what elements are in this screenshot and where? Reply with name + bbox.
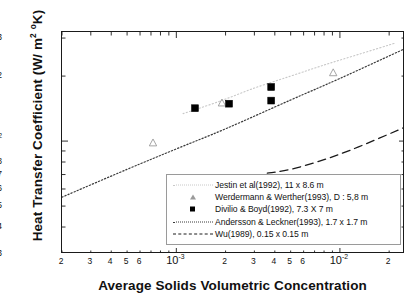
legend-line-dotted-light [173, 185, 213, 186]
legend-item-4: Wu(1989), 0.15 x 0.15 m [171, 228, 394, 240]
legend-symbol-4 [171, 228, 215, 240]
data-point-triangle [149, 139, 156, 146]
x-tick-label-5: 10-3 [155, 254, 195, 266]
series-1 [149, 69, 337, 146]
legend-item-3: Andersson & Leckner(1993), 1.7 x 1.7 m [171, 216, 394, 228]
y-tick-label-2: 102 [0, 133, 2, 145]
data-point-square [226, 100, 233, 107]
legend-marker-filled-square [190, 207, 195, 212]
y-tick-label-1: 2 [0, 70, 2, 80]
chart-root: Heat Transfer Coefficient (W/ m2 oK) Ave… [0, 0, 416, 306]
x-tick-label-4: 6 [119, 256, 159, 266]
legend-line-long-dash [173, 233, 213, 234]
x-axis-title: Average Solids Volumetric Concentration [61, 278, 404, 293]
y-tick-label-6: 5 [0, 200, 2, 210]
data-point-triangle [330, 69, 337, 76]
legend-label-2: Divilio & Boyd(1992), 7.3 X 7 m [215, 204, 333, 214]
legend-item-1: Werdermann & Werther(1993), D : 5,8 m [171, 191, 394, 203]
legend-label-3: Andersson & Leckner(1993), 1.7 x 1.7 m [215, 217, 367, 227]
data-point-square [268, 97, 275, 104]
series-4 [267, 127, 404, 173]
y-tick-label-5: 6 [0, 183, 2, 193]
x-tick-label-11: 10-2 [319, 254, 359, 266]
y-axis-title-text: Heat Transfer Coefficient (W/ m [30, 38, 45, 241]
legend-symbol-0 [171, 179, 215, 191]
legend-item-0: Jestin et al(1992), 11 x 8.6 m [171, 179, 394, 191]
y-axis-title-sup-squared: 2 [28, 33, 38, 38]
series-0 [183, 43, 396, 114]
legend-item-2: Divilio & Boyd(1992), 7.3 X 7 m [171, 203, 394, 215]
legend-symbol-3 [171, 216, 215, 228]
y-tick-label-0: 3 [0, 32, 2, 42]
legend-symbol-2 [171, 203, 215, 215]
y-tick-label-7: 4 [0, 221, 2, 231]
legend: Jestin et al(1992), 11 x 8.6 mWerdermann… [166, 174, 401, 245]
series-2 [192, 84, 275, 112]
y-tick-label-8: 3 [0, 248, 2, 258]
data-point-square [192, 105, 199, 112]
legend-label-1: Werdermann & Werther(1993), D : 5,8 m [215, 192, 368, 202]
y-tick-label-4: 7 [0, 169, 2, 179]
y-axis-title-space [30, 29, 45, 33]
legend-line-dotted [173, 221, 213, 222]
data-point-square [268, 84, 275, 91]
y-axis-title-sup-degree: o [28, 24, 38, 29]
x-tick-label-12: 2 [368, 256, 408, 266]
y-axis-title-tail: K) [30, 10, 45, 24]
x-tick-label-10: 6 [283, 256, 323, 266]
legend-label-0: Jestin et al(1992), 11 x 8.6 m [215, 180, 324, 190]
legend-symbol-1 [171, 191, 215, 203]
y-tick-label-3: 8 [0, 156, 2, 166]
legend-marker-open-triangle [190, 195, 196, 200]
legend-label-4: Wu(1989), 0.15 x 0.15 m [215, 229, 308, 239]
y-axis-title: Heat Transfer Coefficient (W/ m2 oK) [30, 1, 45, 251]
